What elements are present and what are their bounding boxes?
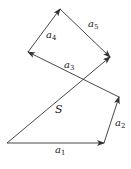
vector-diagram: a5 a4 a3 S a2 a1 [0, 0, 131, 169]
label-a5: a5 [88, 18, 98, 31]
label-a3: a3 [64, 59, 74, 72]
vector-a3 [28, 52, 119, 97]
label-a4: a4 [46, 29, 57, 42]
label-a1: a1 [55, 144, 65, 157]
vector-a5 [60, 9, 110, 57]
vector-a4 [28, 9, 60, 52]
label-a2: a2 [115, 117, 125, 130]
label-S: S [55, 103, 63, 116]
vector-S [7, 57, 110, 143]
